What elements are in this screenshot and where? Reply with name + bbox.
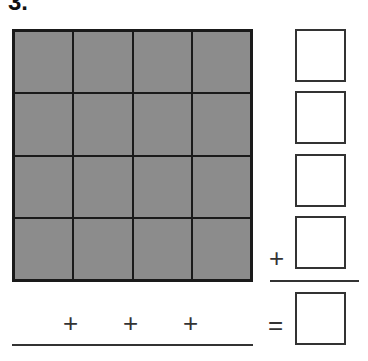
grid-cell xyxy=(192,218,251,280)
grid-cell xyxy=(192,156,251,218)
grid-cell xyxy=(192,31,251,93)
grid-cell xyxy=(133,156,192,218)
grid-cell xyxy=(14,31,73,93)
grid-cell xyxy=(14,156,73,218)
grid-cell xyxy=(133,93,192,155)
problem-number: 3. xyxy=(8,0,28,16)
column-plus-sign-1: + xyxy=(63,310,78,336)
equals-sign: = xyxy=(268,312,283,338)
grid-cell xyxy=(73,31,132,93)
row-plus-sign: + xyxy=(269,245,284,271)
grid-cell xyxy=(73,93,132,155)
grid-cell xyxy=(133,218,192,280)
column-plus-sign-2: + xyxy=(123,310,138,336)
row-sum-box-2[interactable] xyxy=(295,91,346,144)
grid-cell xyxy=(133,31,192,93)
row-sum-box-1[interactable] xyxy=(295,29,346,82)
total-box[interactable] xyxy=(295,292,346,345)
grid-cell xyxy=(14,218,73,280)
sum-rule-bottom xyxy=(12,344,253,346)
grid-cell xyxy=(73,156,132,218)
sum-rule-right xyxy=(270,280,359,282)
grid-cell xyxy=(73,218,132,280)
row-sum-box-3[interactable] xyxy=(295,154,346,207)
grid-cell xyxy=(14,93,73,155)
column-plus-sign-3: + xyxy=(183,310,198,336)
grid-cell xyxy=(192,93,251,155)
row-sum-box-4[interactable] xyxy=(295,216,346,269)
shaded-grid-4x4 xyxy=(12,29,253,282)
